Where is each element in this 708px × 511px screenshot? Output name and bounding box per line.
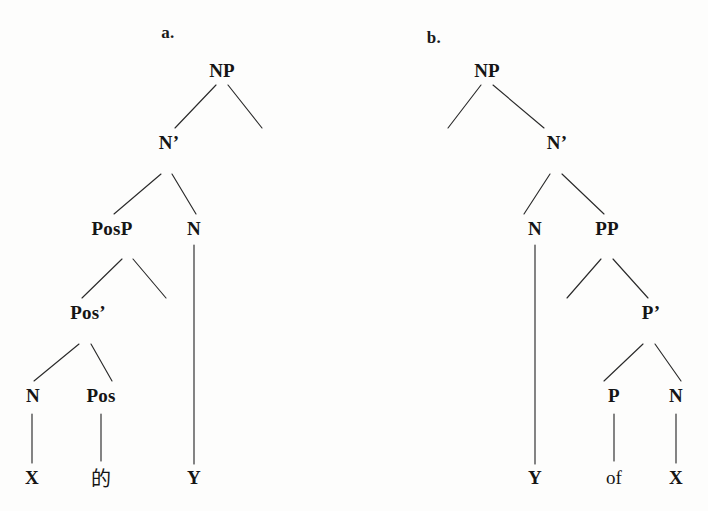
tree-b-node-np: NP — [474, 60, 500, 82]
tree-branch-layer — [0, 0, 708, 511]
tree-b-edge-nbar-to-pp — [562, 174, 604, 214]
tree-a-edge-np-to-right-empty — [228, 85, 262, 128]
tree-b-edge-pbar-to-n — [655, 344, 681, 381]
tree-a-node-posbar: Pos’ — [70, 302, 106, 324]
tree-b-edge-pbar-to-p — [604, 344, 643, 381]
tree-b-node-pbar: P’ — [642, 302, 660, 324]
syntax-tree-figure: a. NPN’PosPNPos’NPosX的Y b. NPN’NPPP’PNYo… — [0, 0, 708, 511]
tree-a-edge-posbar-to-pos — [91, 344, 112, 381]
tree-a-edge-np-to-nbar — [175, 85, 216, 128]
tree-a-edge-posp-to-posbar — [82, 259, 122, 298]
tree-a-node-term-x: X — [25, 467, 39, 489]
tree-b-label: b. — [427, 28, 441, 48]
tree-b-edge-np-to-left-empty — [448, 85, 481, 128]
tree-a-edge-nbar-to-n — [172, 174, 196, 214]
tree-b-node-term-x: X — [669, 467, 683, 489]
tree-a-branches — [32, 85, 262, 464]
tree-a-node-posp: PosP — [92, 218, 133, 240]
tree-b-edge-pp-to-left-empty — [567, 259, 601, 298]
tree-b-node-n-head: N — [528, 218, 542, 240]
tree-b-node-term-of: of — [606, 467, 622, 489]
tree-b-node-n-comp: N — [669, 385, 683, 407]
tree-a-node-term-de: 的 — [91, 463, 111, 492]
tree-b-node-p: P — [608, 385, 620, 407]
tree-b-node-term-y: Y — [528, 467, 542, 489]
tree-a-node-pos: Pos — [86, 385, 115, 407]
tree-a-label: a. — [161, 23, 174, 43]
tree-b-node-nbar: N’ — [547, 132, 567, 154]
tree-b-node-pp: PP — [595, 218, 619, 240]
tree-a-node-n-spec: N — [26, 385, 40, 407]
tree-a-node-term-y: Y — [187, 467, 201, 489]
tree-a-edge-posbar-to-n — [34, 344, 79, 381]
tree-b-edge-np-to-nbar — [493, 85, 544, 128]
tree-a-node-nbar: N’ — [159, 132, 179, 154]
tree-b-edge-nbar-to-n — [524, 174, 550, 214]
tree-a-node-n-head: N — [187, 218, 201, 240]
tree-b-edge-pp-to-pbar — [613, 259, 648, 298]
tree-a-node-np: NP — [209, 60, 235, 82]
tree-a-edge-posp-to-right-empty — [133, 259, 166, 298]
tree-a-edge-nbar-to-posp — [114, 174, 161, 214]
